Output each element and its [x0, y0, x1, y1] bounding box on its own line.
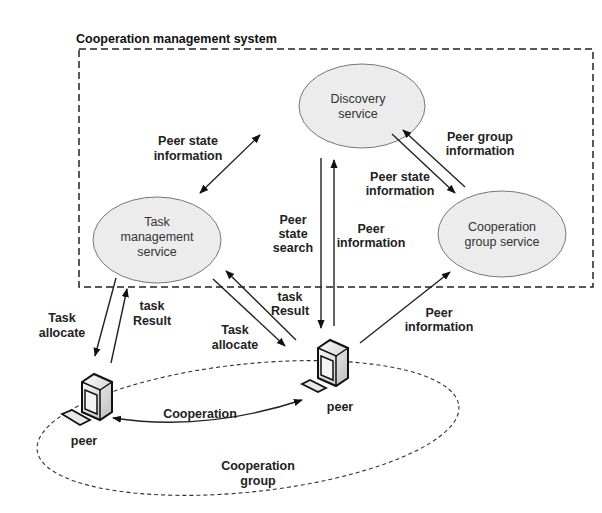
label-peer-state-search-1: Peer [279, 213, 306, 227]
cooperation-group-service-node[interactable]: Cooperation group service [438, 191, 566, 277]
peer-left[interactable]: peer [62, 374, 112, 448]
discovery-service-line2: service [338, 107, 378, 121]
task-service-line2: management [121, 230, 194, 244]
cooperation-group-label-2: group [240, 474, 276, 488]
label-peer-state-search-3: search [273, 241, 313, 255]
computer-icon [62, 374, 112, 425]
system-title: Cooperation management system [76, 32, 277, 46]
task-service-line1: Task [144, 215, 170, 229]
edge-task-result-left [111, 289, 127, 363]
label-peer-state-search-2: state [278, 227, 307, 241]
discovery-service-line1: Discovery [331, 92, 387, 106]
label-peer-state-information-left-1: Peer state [158, 134, 218, 148]
peer-left-label: peer [71, 434, 98, 448]
label-peer-information-coop-1: Peer [425, 306, 452, 320]
label-peer-information-up-2: information [337, 236, 406, 250]
discovery-service-node[interactable]: Discovery service [299, 64, 425, 148]
label-task-allocate-left-1: Task [48, 311, 76, 325]
computer-icon [302, 340, 348, 392]
label-peer-information-coop-2: information [405, 320, 474, 334]
cooperation-diagram: Cooperation management system Discovery … [0, 0, 602, 513]
label-peer-state-information-right-1: Peer state [370, 170, 430, 184]
edge-task-allocate-left [95, 278, 116, 356]
label-peer-group-information-1: Peer group [447, 130, 513, 144]
label-task-result-right-1: task [277, 290, 302, 304]
label-task-result-right-2: Result [271, 304, 310, 318]
label-peer-group-information-2: information [446, 144, 515, 158]
label-task-result-left-1: task [139, 299, 164, 313]
label-task-allocate-left-2: allocate [39, 326, 86, 340]
label-task-allocate-right-1: Task [221, 323, 249, 337]
label-cooperation: Cooperation [163, 407, 237, 421]
task-service-line3: service [137, 245, 177, 259]
label-task-allocate-right-2: allocate [212, 338, 259, 352]
peer-right-label: peer [327, 400, 354, 414]
label-peer-state-information-right-2: information [366, 184, 435, 198]
task-management-service-node[interactable]: Task management service [93, 197, 221, 283]
label-peer-state-information-left-2: information [154, 149, 223, 163]
coop-service-line1: Cooperation [468, 220, 536, 234]
label-peer-information-up-1: Peer [357, 222, 384, 236]
label-task-result-left-2: Result [133, 314, 172, 328]
cooperation-group-label-1: Cooperation [221, 459, 295, 473]
peer-right[interactable]: peer [302, 340, 353, 414]
coop-service-line2: group service [464, 235, 539, 249]
